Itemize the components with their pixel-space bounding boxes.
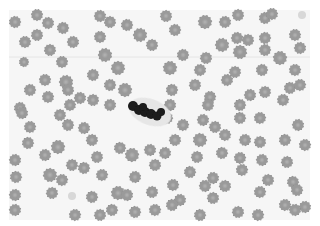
faint-cell	[298, 11, 306, 19]
nucleus-lobe	[139, 103, 147, 111]
blood-smear-image	[0, 0, 320, 226]
micrograph	[0, 0, 320, 226]
nucleus-lobe	[157, 108, 165, 116]
faint-cell	[68, 192, 76, 200]
